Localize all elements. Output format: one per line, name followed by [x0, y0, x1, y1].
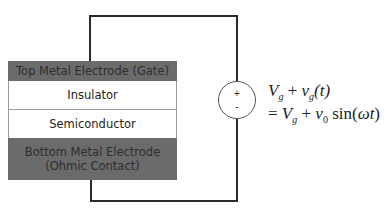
eq-argument: ωt [358, 104, 375, 123]
plus-sign: + [219, 88, 255, 99]
layer-label-line2: (Ohmic Contact) [45, 159, 139, 173]
eq-symbol: V [268, 81, 278, 100]
eq-operator: + [283, 81, 301, 100]
layer-semiconductor: Semiconductor [8, 110, 177, 138]
layer-insulator: Insulator [8, 81, 177, 110]
wire-contact-vertical [90, 180, 92, 201]
equation-line-2: = Vg + v0 sin(ωt) [268, 104, 380, 125]
equation-line-1: Vg + vg(t) [268, 81, 330, 102]
layer-label: Semiconductor [49, 117, 136, 131]
wire-gate-vertical [89, 15, 91, 62]
eq-argument: (t) [314, 81, 330, 100]
layer-label: Top Metal Electrode (Gate) [16, 64, 169, 78]
eq-paren: ) [374, 104, 380, 123]
layer-bottom-metal-contact: Bottom Metal Electrode (Ohmic Contact) [8, 138, 177, 180]
minus-sign: - [219, 101, 255, 112]
wire-source-bottom [236, 119, 238, 201]
layer-top-metal-gate: Top Metal Electrode (Gate) [8, 61, 177, 81]
wire-source-top [236, 15, 238, 81]
eq-symbol: V [282, 104, 292, 123]
eq-symbol: v [315, 104, 323, 123]
wire-bottom [90, 200, 238, 202]
ac-voltage-source-icon: + - [218, 81, 256, 119]
layer-label: Insulator [67, 88, 117, 102]
eq-operator: + [297, 104, 315, 123]
wire-top [89, 15, 238, 17]
eq-function: sin( [328, 104, 358, 123]
eq-symbol: v [301, 81, 309, 100]
layer-label-line1: Bottom Metal Electrode [25, 145, 161, 159]
eq-operator: = [268, 104, 282, 123]
